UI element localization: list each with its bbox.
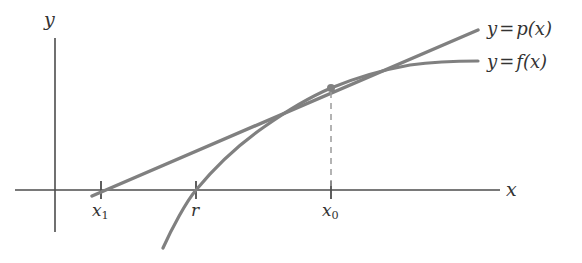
curve-label-p-eq: = [497, 18, 516, 39]
tick-label-x1: x1 [92, 202, 109, 221]
x-axis-label: x [506, 180, 517, 199]
tick-label-x0-sub: 0 [332, 209, 339, 222]
tick-label-x1-sub: 1 [102, 209, 109, 222]
curve-label-p: y=p(x) [487, 20, 552, 38]
tick-label-x0-main: x [322, 200, 332, 220]
function-curve-f [163, 61, 478, 248]
tangency-point-dot [327, 84, 335, 92]
curve-label-f-rhs: f(x) [516, 51, 547, 72]
tick-label-x0: x0 [322, 202, 339, 221]
curve-label-p-rhs: p(x) [516, 18, 552, 39]
curve-label-p-lhs: y [487, 18, 497, 39]
plot-canvas [0, 0, 582, 263]
tick-label-x1-main: x [92, 200, 102, 220]
tick-label-r: r [191, 202, 199, 221]
curve-label-f-eq: = [497, 51, 516, 72]
tick-label-r-main: r [191, 200, 199, 220]
curve-label-f-lhs: y [487, 51, 497, 72]
curve-label-f: y=f(x) [487, 53, 547, 71]
newton-method-figure: y x x1 r x0 y=p(x) y=f(x) [0, 0, 582, 263]
tangent-line-p [92, 30, 478, 196]
y-axis-label: y [44, 10, 55, 29]
